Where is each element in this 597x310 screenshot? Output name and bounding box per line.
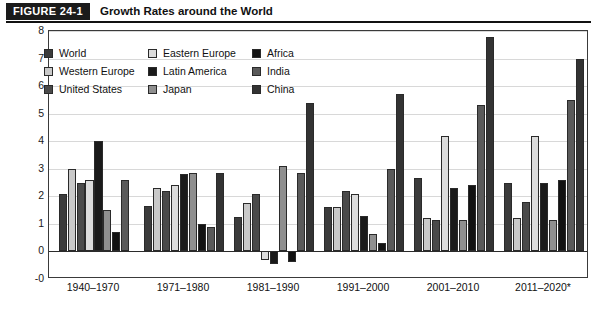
- bar: [261, 251, 269, 259]
- y-axis-tick-label: 2: [4, 189, 44, 201]
- bar: [270, 251, 278, 263]
- bar: [423, 218, 431, 251]
- bar: [297, 173, 305, 252]
- bar: [162, 191, 170, 252]
- bar: [112, 232, 120, 251]
- legend-item-label: World: [59, 48, 86, 59]
- y-axis-tick-label: 1: [4, 217, 44, 229]
- legend-swatch-icon: [252, 49, 261, 58]
- bar: [279, 166, 287, 251]
- bar: [121, 180, 129, 252]
- bar: [59, 194, 67, 252]
- figure-container: FIGURE 24-1 Growth Rates around the Worl…: [0, 0, 597, 310]
- bar: [558, 180, 566, 252]
- bar: [324, 207, 332, 251]
- bar: [387, 169, 395, 252]
- bar: [68, 169, 76, 252]
- y-axis-tick-label: -0: [4, 272, 44, 284]
- bar: [513, 218, 521, 251]
- legend-swatch-icon: [44, 67, 53, 76]
- bar: [342, 191, 350, 252]
- bar: [234, 217, 242, 251]
- bar: [468, 185, 476, 251]
- legend-item-label: Latin America: [163, 66, 227, 77]
- bar: [243, 203, 251, 251]
- x-axis-tick-label: 1981–1990: [247, 281, 300, 293]
- bar: [189, 173, 197, 252]
- x-axis: 1940–19701971–19801981–19901991–20002001…: [48, 281, 588, 297]
- legend-item-label: India: [267, 66, 290, 77]
- bar: [540, 183, 548, 252]
- y-axis-tick-label: 6: [4, 79, 44, 91]
- bar: [522, 202, 530, 252]
- bar: [216, 173, 224, 252]
- y-axis: 876543210-0: [0, 30, 44, 278]
- y-axis-tick-label: 7: [4, 52, 44, 64]
- bar: [171, 185, 179, 251]
- bar: [85, 180, 93, 252]
- bar: [450, 188, 458, 251]
- legend: WorldWestern EuropeUnited StatesEastern …: [44, 44, 324, 100]
- bar: [531, 136, 539, 252]
- source-note: [6, 299, 591, 309]
- x-axis-tick-label: 2011–2020*: [515, 281, 571, 293]
- legend-item-label: Africa: [267, 48, 294, 59]
- bar: [576, 59, 584, 252]
- y-axis-tick-label: 8: [4, 24, 44, 36]
- x-axis-tick-label: 1991–2000: [337, 281, 390, 293]
- legend-item: Japan: [148, 80, 252, 98]
- legend-swatch-icon: [148, 49, 157, 58]
- legend-swatch-icon: [148, 67, 157, 76]
- legend-item: Eastern Europe: [148, 44, 252, 62]
- page-title: Growth Rates around the World: [100, 5, 273, 17]
- bar: [549, 220, 557, 252]
- x-axis-tick-label: 2001–2010: [427, 281, 480, 293]
- legend-swatch-icon: [148, 85, 157, 94]
- bar: [504, 183, 512, 252]
- bar: [77, 183, 85, 252]
- bar: [360, 216, 368, 252]
- bar: [351, 194, 359, 252]
- figure-number-tag: FIGURE 24-1: [6, 3, 90, 20]
- legend-item: World: [44, 44, 148, 62]
- bar: [153, 188, 161, 251]
- bar: [180, 174, 188, 251]
- bar: [94, 141, 102, 251]
- bar: [288, 251, 296, 262]
- bar: [459, 220, 467, 252]
- legend-swatch-icon: [44, 85, 53, 94]
- bar: [567, 100, 575, 252]
- x-axis-tick-label: 1940–1970: [67, 281, 120, 293]
- bar: [396, 94, 404, 251]
- legend-item-label: Western Europe: [59, 66, 135, 77]
- bar: [477, 105, 485, 251]
- bar: [378, 243, 386, 251]
- bar: [207, 227, 215, 252]
- legend-item: Africa: [252, 44, 324, 62]
- x-axis-tick-label: 1971–1980: [157, 281, 210, 293]
- bar: [252, 194, 260, 252]
- legend-item-label: Japan: [163, 84, 192, 95]
- bar: [486, 37, 494, 252]
- y-axis-tick-label: 3: [4, 162, 44, 174]
- bar: [414, 178, 422, 251]
- legend-swatch-icon: [252, 67, 261, 76]
- legend-item: China: [252, 80, 324, 98]
- legend-item: India: [252, 62, 324, 80]
- y-axis-tick-label: 0: [4, 244, 44, 256]
- legend-item: United States: [44, 80, 148, 98]
- figure-header: FIGURE 24-1 Growth Rates around the Worl…: [0, 0, 597, 22]
- legend-item-label: China: [267, 84, 294, 95]
- bar: [333, 207, 341, 251]
- bar: [198, 224, 206, 252]
- legend-swatch-icon: [44, 49, 53, 58]
- bar: [441, 136, 449, 252]
- header-divider: [6, 21, 591, 23]
- bar: [432, 220, 440, 252]
- y-axis-tick-label: 4: [4, 134, 44, 146]
- legend-item-label: United States: [59, 84, 122, 95]
- bar: [103, 210, 111, 251]
- legend-item: Western Europe: [44, 62, 148, 80]
- legend-swatch-icon: [252, 85, 261, 94]
- legend-item: Latin America: [148, 62, 252, 80]
